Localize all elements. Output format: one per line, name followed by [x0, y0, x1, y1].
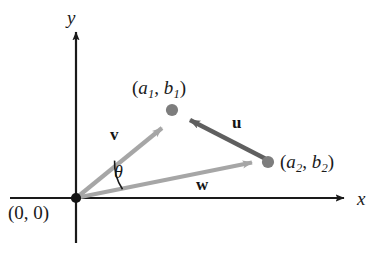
- origin-point: [71, 193, 81, 203]
- var-a: a: [286, 151, 296, 172]
- vector-v-label: v: [110, 126, 119, 143]
- x-axis-label: x: [357, 189, 365, 208]
- paren-close: ): [328, 151, 334, 172]
- paren-close: ): [180, 77, 186, 98]
- vector-w-arrow: [78, 163, 252, 198]
- point-a2b2-dot: [262, 156, 274, 168]
- point-a2b2-label: (a2, b2): [280, 152, 334, 174]
- vector-u-label: u: [232, 114, 241, 131]
- point-a1b1-label: (a1, b1): [132, 78, 186, 100]
- separator: ,: [154, 77, 164, 98]
- vector-diagram: (a1, b1) (a2, b2) (0, 0) y x v u w θ: [0, 0, 382, 254]
- y-axis-label: y: [67, 8, 75, 27]
- point-a1b1-dot: [166, 104, 178, 116]
- vector-figure-svg: [0, 0, 382, 254]
- var-a: a: [138, 77, 148, 98]
- vector-u-arrow: [190, 120, 265, 159]
- vector-w-label: w: [196, 176, 208, 193]
- angle-theta-label: θ: [114, 163, 123, 181]
- separator: ,: [302, 151, 312, 172]
- origin-label: (0, 0): [8, 203, 49, 222]
- var-b: b: [312, 151, 322, 172]
- var-b: b: [164, 77, 174, 98]
